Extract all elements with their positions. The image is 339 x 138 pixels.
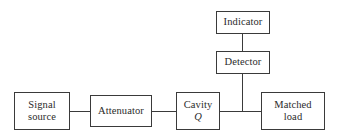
block-indicator: Indicator <box>216 11 270 34</box>
block-diagram-canvas: IndicatorDetectorSignalsourceAttenuatorC… <box>0 0 339 138</box>
block-label-primary: Cavity <box>184 99 213 111</box>
block-label-secondary: load <box>284 111 302 123</box>
connector-indicator-to-detector <box>242 34 243 51</box>
block-attenuator: Attenuator <box>90 95 152 127</box>
block-label-secondary: source <box>28 111 56 123</box>
block-label-primary: Attenuator <box>98 105 144 117</box>
connector-cavity-to-matched-load <box>220 111 261 112</box>
block-label-primary: Indicator <box>224 16 263 28</box>
block-detector: Detector <box>216 51 270 74</box>
block-label-primary: Matched <box>274 99 311 111</box>
connector-signal-source-to-attenuator <box>70 111 90 112</box>
block-label-primary: Detector <box>225 56 262 68</box>
block-matched-load: Matchedload <box>261 92 325 130</box>
connector-detector-to-bus <box>242 74 243 111</box>
block-cavity-q: CavityQ <box>176 92 220 130</box>
block-signal-source: Signalsource <box>14 92 70 130</box>
block-label-secondary: Q <box>194 111 202 123</box>
block-label-primary: Signal <box>28 99 55 111</box>
connector-attenuator-to-cavity <box>152 111 176 112</box>
